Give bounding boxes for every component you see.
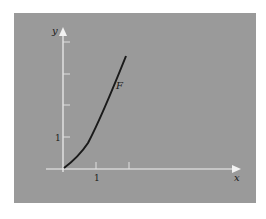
graph: y x 1 1 F: [0, 0, 266, 219]
y-axis-arrow-icon: [59, 27, 67, 36]
y-axis-label: y: [51, 25, 58, 36]
curve-f: [64, 56, 126, 168]
x-axis-label: x: [234, 172, 240, 183]
curve-label: F: [115, 80, 124, 91]
x-tick-label: 1: [94, 173, 100, 183]
y-ticks: [63, 42, 70, 137]
x-ticks: [96, 162, 129, 169]
y-tick-label: 1: [55, 133, 61, 143]
